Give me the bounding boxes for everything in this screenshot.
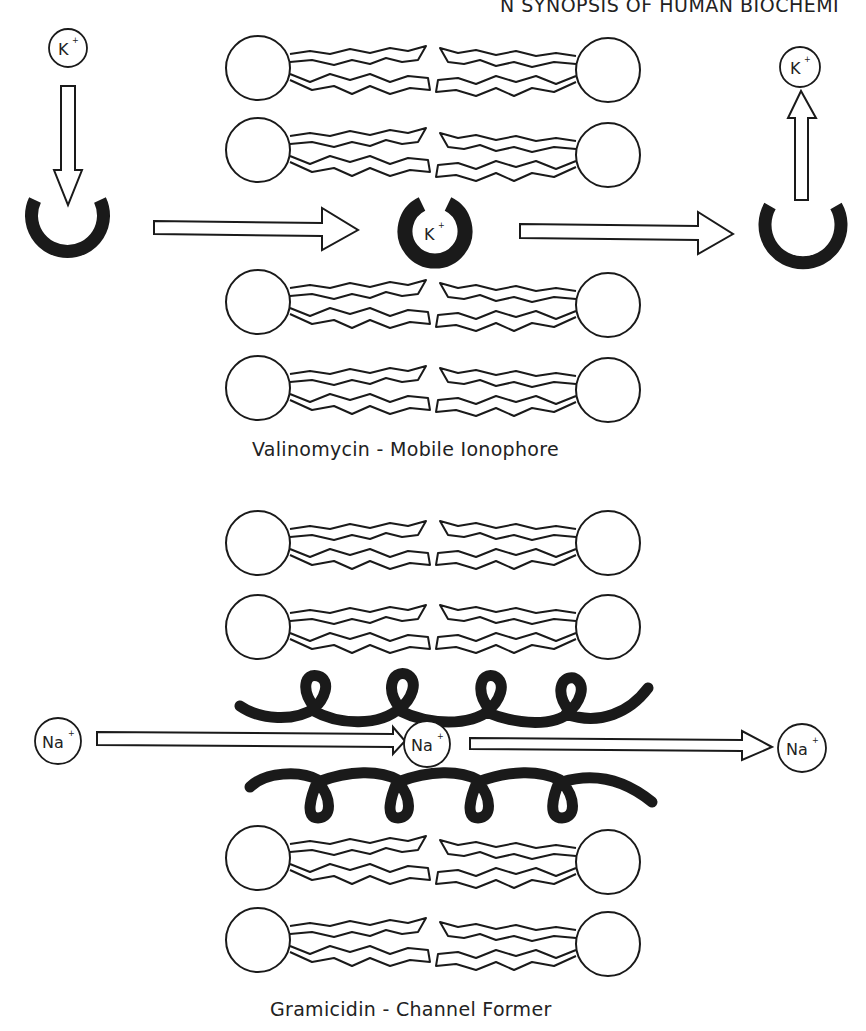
loaded-carrier-icon: K + (405, 204, 465, 261)
potassium-ion-icon: K + (49, 29, 87, 67)
sodium-ion-icon: Na + (778, 724, 826, 772)
lipid-bilayer-lower (226, 270, 640, 422)
right-arrow-icon (97, 727, 405, 754)
phospholipid (436, 273, 640, 337)
open-carrier-icon (32, 200, 104, 251)
phospholipid (226, 270, 430, 334)
sodium-ion-icon: Na + (35, 718, 81, 764)
phospholipid (226, 118, 430, 182)
phospholipid (436, 830, 640, 894)
svg-text:Na: Na (42, 733, 64, 752)
phospholipid (436, 38, 640, 102)
gramicidin-caption: Gramicidin - Channel Former (270, 998, 552, 1020)
open-carrier-icon (765, 206, 841, 263)
svg-text:Na: Na (786, 740, 808, 759)
right-arrow-icon (470, 731, 772, 760)
phospholipid (226, 36, 430, 100)
phospholipid (436, 595, 640, 659)
phospholipid (436, 912, 640, 976)
right-arrow-icon (520, 212, 733, 254)
sodium-ion-icon: Na + (404, 721, 450, 767)
svg-text:+: + (438, 221, 445, 230)
svg-text:Na: Na (411, 736, 433, 755)
svg-text:+: + (804, 55, 811, 64)
svg-text:K: K (424, 225, 435, 244)
svg-text:+: + (437, 732, 444, 741)
valinomycin-diagram: K + K + K + (32, 29, 842, 422)
phospholipid (226, 595, 430, 659)
gramicidin-helix-lower (250, 773, 652, 818)
phospholipid (226, 908, 430, 972)
gramicidin-helix-upper (240, 673, 648, 722)
down-arrow-icon (54, 86, 82, 205)
phospholipid (436, 123, 640, 187)
up-arrow-icon (788, 91, 816, 200)
right-arrow-icon (154, 208, 358, 250)
phospholipid (436, 358, 640, 422)
gramicidin-diagram: Na + Na + Na + (35, 511, 826, 976)
svg-text:K: K (58, 40, 69, 59)
svg-text:+: + (812, 736, 819, 745)
potassium-ion-icon: K + (780, 47, 820, 87)
lipid-bilayer-upper (226, 511, 640, 659)
ionophore-diagram: K + K + K + (0, 0, 866, 1031)
svg-text:+: + (72, 36, 79, 45)
lipid-bilayer-lower (226, 826, 640, 976)
svg-text:K: K (790, 59, 801, 78)
lipid-bilayer-upper (226, 36, 640, 187)
phospholipid (226, 356, 430, 420)
svg-text:+: + (68, 729, 75, 738)
phospholipid (226, 511, 430, 575)
valinomycin-caption: Valinomycin - Mobile Ionophore (252, 438, 559, 460)
phospholipid (436, 511, 640, 575)
phospholipid (226, 826, 430, 890)
